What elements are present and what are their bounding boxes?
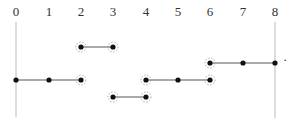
tick-label-4: 4 [143, 4, 150, 19]
tick-label-7: 7 [240, 4, 247, 19]
tick-label-2: 2 [78, 4, 85, 19]
tick-label-6: 6 [207, 4, 214, 19]
segment-4-6-point-4 [143, 77, 148, 82]
tick-label-1: 1 [46, 4, 53, 19]
segment-0-2-point-1 [46, 77, 51, 82]
segment-6-8-point-7 [240, 60, 245, 65]
segment-2-3-point-2 [78, 44, 83, 49]
tick-label-3: 3 [110, 4, 117, 19]
segment-4-6-point-6 [207, 77, 212, 82]
segment-6-8-point-8 [272, 60, 277, 65]
trailing-mark: · [283, 52, 287, 67]
segment-3-4-point-3 [110, 94, 115, 99]
segment-0-2-point-0 [13, 77, 18, 82]
tick-label-8: 8 [272, 4, 279, 19]
tick-label-0: 0 [13, 4, 20, 19]
segment-2-3-point-3 [110, 44, 115, 49]
segment-4-6-point-5 [175, 77, 180, 82]
step-function-diagram: 012345678· [0, 0, 299, 124]
tick-label-5: 5 [175, 4, 182, 19]
segment-3-4-point-4 [143, 94, 148, 99]
segment-6-8-point-6 [207, 60, 212, 65]
segment-0-2-point-2 [78, 77, 83, 82]
